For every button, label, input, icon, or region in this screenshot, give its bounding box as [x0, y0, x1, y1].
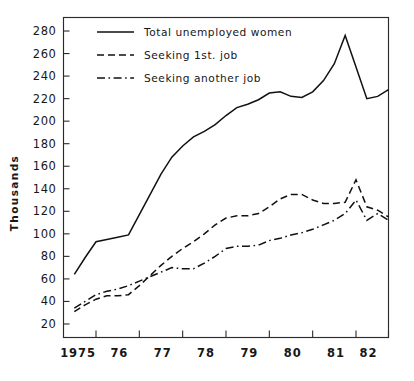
y-tick-label: 160 — [33, 159, 57, 173]
y-tick-label: 140 — [33, 182, 57, 196]
x-tick-label: 76 — [110, 346, 128, 360]
x-tick-label: 1975 — [60, 346, 96, 360]
y-axis-title: Thousands — [8, 155, 20, 232]
y-tick-label: 240 — [33, 69, 57, 83]
legend-label: Seeking 1st. job — [144, 49, 238, 61]
x-tick-label: 78 — [197, 346, 215, 360]
chart-container: 20406080100120140160180200220240260280 1… — [0, 0, 414, 381]
x-tick-label: 79 — [240, 346, 258, 360]
x-tick-label: 81 — [327, 346, 345, 360]
y-tick-label: 100 — [33, 227, 57, 241]
legend-label: Total unemployed women — [143, 26, 292, 38]
y-tick-label: 280 — [33, 24, 57, 38]
y-tick-label: 80 — [41, 249, 57, 263]
y-tick-label: 60 — [41, 272, 57, 286]
y-tick-label: 40 — [41, 294, 57, 308]
y-tick-label: 200 — [33, 114, 57, 128]
x-tick-label: 77 — [154, 346, 172, 360]
y-tick-label: 20 — [41, 317, 57, 331]
y-tick-label: 180 — [33, 137, 57, 151]
y-tick-label: 260 — [33, 47, 57, 61]
y-tick-label: 120 — [33, 204, 57, 218]
x-tick-label: 80 — [284, 346, 302, 360]
y-tick-label: 220 — [33, 92, 57, 106]
legend-label: Seeking another job — [144, 72, 261, 84]
x-tick-label: 82 — [360, 346, 378, 360]
line-chart: 20406080100120140160180200220240260280 1… — [0, 0, 414, 381]
